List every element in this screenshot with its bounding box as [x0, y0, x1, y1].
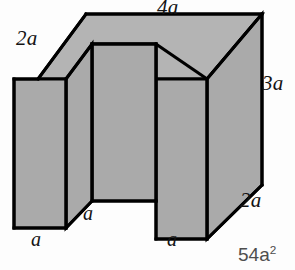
- dimension-label-left-foot-width: a: [31, 229, 41, 249]
- notch-inner-back-face: [92, 44, 156, 201]
- dimension-label-top-width: 4a: [157, 0, 178, 18]
- figure-container: 2a 4a 3a 2a a a a 54a2: [0, 0, 295, 270]
- answer-exponent: 2: [270, 243, 277, 256]
- answer-base: 54a: [238, 244, 270, 265]
- dimension-label-right-depth: 2a: [240, 190, 261, 211]
- dimension-label-right-height: 3a: [262, 73, 283, 94]
- dimension-label-notch-depth: a: [83, 203, 93, 223]
- u-shaped-prism-drawing: [0, 0, 295, 270]
- front-face-right-prong: [156, 79, 207, 239]
- answer-surface-area: 54a2: [238, 245, 276, 264]
- dimension-label-right-foot-width: a: [167, 229, 177, 249]
- dimension-label-top-depth: 2a: [16, 28, 37, 49]
- front-face-left-prong: [14, 79, 66, 228]
